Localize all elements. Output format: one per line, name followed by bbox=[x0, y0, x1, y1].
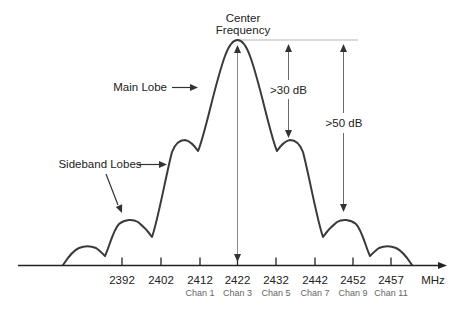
arrow-up-icon bbox=[285, 44, 292, 52]
channel-label: Chan 1 bbox=[185, 288, 214, 298]
channel-label: Chan 3 bbox=[223, 288, 252, 298]
spectrum-diagram: >30 dB >50 dB Center Frequency Main Lobe… bbox=[0, 0, 468, 313]
channel-label: Chan 5 bbox=[261, 288, 290, 298]
center-frequency-label-line1: Center bbox=[226, 12, 261, 24]
freq-tick-label: 2432 bbox=[263, 274, 289, 286]
freq-tick-label: 2457 bbox=[378, 274, 404, 286]
channel-label: Chan 9 bbox=[338, 288, 367, 298]
attenuation-30-label: >30 dB bbox=[270, 84, 307, 96]
freq-tick-label: 2442 bbox=[302, 274, 328, 286]
freq-tick-label: 2392 bbox=[109, 274, 135, 286]
arrow-down-right-icon bbox=[116, 204, 122, 213]
arrow-up-icon bbox=[340, 44, 347, 52]
arrow-up-icon bbox=[234, 45, 241, 53]
freq-tick-label: 2402 bbox=[148, 274, 174, 286]
sideband-callout-line-2 bbox=[106, 174, 118, 205]
axis-arrowhead-icon bbox=[438, 262, 447, 269]
freq-tick-label: 2422 bbox=[225, 274, 251, 286]
freq-tick-label: 2452 bbox=[340, 274, 366, 286]
frequency-labels: 2392 2402 2412 2422 2432 2442 2452 2457 … bbox=[109, 274, 445, 286]
channel-label: Chan 7 bbox=[300, 288, 329, 298]
axis-ticks bbox=[122, 258, 391, 266]
arrow-right-icon bbox=[190, 84, 198, 91]
diagram-svg: >30 dB >50 dB Center Frequency Main Lobe… bbox=[0, 0, 468, 313]
main-lobe-label: Main Lobe bbox=[113, 81, 167, 93]
attenuation-50-label: >50 dB bbox=[326, 117, 363, 129]
arrow-down-icon bbox=[234, 254, 241, 262]
center-frequency-label-line2: Frequency bbox=[216, 24, 271, 36]
channel-label: Chan 11 bbox=[374, 288, 407, 298]
arrow-down-icon bbox=[340, 204, 347, 212]
arrow-down-icon bbox=[285, 130, 292, 138]
freq-tick-label: 2412 bbox=[187, 274, 213, 286]
axis-unit-label: MHz bbox=[421, 274, 445, 286]
sideband-lobes-label: Sideband Lobes bbox=[58, 158, 141, 170]
arrow-right-icon bbox=[159, 161, 167, 168]
channel-labels: Chan 1 Chan 3 Chan 5 Chan 7 Chan 9 Chan … bbox=[185, 288, 407, 298]
